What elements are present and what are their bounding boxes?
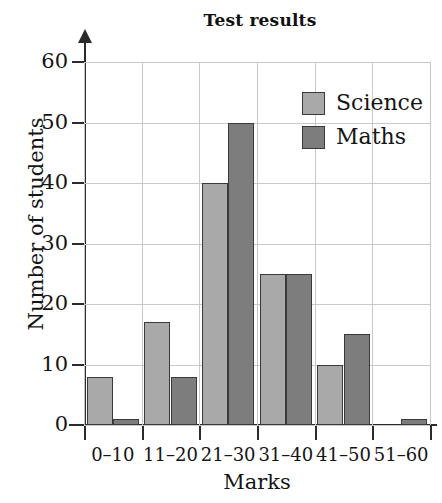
y-tick-label: 60 — [16, 51, 68, 72]
legend-label-science: Science — [336, 91, 423, 115]
x-tick-label: 51–60 — [372, 444, 430, 466]
y-tick-mark — [72, 243, 84, 245]
bar-maths-11-20 — [171, 377, 197, 425]
gridline-vertical — [199, 62, 200, 425]
bar-science-41-50 — [317, 365, 343, 426]
bar-maths-31-40 — [286, 274, 312, 425]
x-tick-mark — [372, 426, 374, 440]
bar-maths-0-10 — [113, 419, 139, 425]
x-tick-mark — [257, 426, 259, 440]
y-tick-mark — [72, 303, 84, 305]
bar-science-0-10 — [87, 377, 113, 425]
bar-science-31-40 — [260, 274, 286, 425]
x-axis-tick-labels: 0–1011–2021–3031–4041–5051–60 — [84, 444, 430, 470]
x-tick-mark — [199, 426, 201, 440]
chart-figure: Test results 0102030405060 0–1011–2021–3… — [0, 0, 442, 503]
legend-swatch-science — [302, 92, 325, 115]
gridline-vertical — [84, 62, 85, 425]
y-tick-mark — [72, 61, 84, 63]
x-tick-label: 21–30 — [199, 444, 257, 466]
bar-science-11-20 — [144, 322, 170, 425]
y-tick-label: 10 — [16, 354, 68, 375]
x-axis-title: Marks — [84, 470, 430, 494]
bar-science-21-30 — [202, 183, 228, 425]
y-tick-label: 0 — [16, 414, 68, 435]
chart-title: Test results — [130, 10, 390, 30]
gridline-vertical — [257, 62, 258, 425]
x-tick-label: 41–50 — [315, 444, 373, 466]
legend-label-maths: Maths — [336, 125, 406, 149]
x-tick-mark — [315, 426, 317, 440]
bar-maths-51-60 — [401, 419, 427, 425]
y-tick-mark — [72, 122, 84, 124]
legend-swatch-maths — [302, 126, 325, 149]
bar-maths-41-50 — [344, 334, 370, 425]
x-tick-mark — [84, 426, 86, 440]
y-tick-mark — [72, 182, 84, 184]
x-tick-label: 11–20 — [142, 444, 200, 466]
x-tick-label: 0–10 — [84, 444, 142, 466]
legend-item-science: Science — [302, 86, 437, 120]
y-axis-title: Number of students — [24, 94, 48, 354]
y-tick-mark — [72, 424, 84, 426]
x-tick-label: 31–40 — [257, 444, 315, 466]
bar-maths-21-30 — [228, 123, 254, 426]
gridline-vertical — [142, 62, 143, 425]
y-tick-mark — [72, 364, 84, 366]
x-tick-mark — [430, 426, 432, 440]
legend-item-maths: Maths — [302, 120, 437, 154]
x-tick-mark — [142, 426, 144, 440]
chart-legend: ScienceMaths — [302, 86, 437, 154]
